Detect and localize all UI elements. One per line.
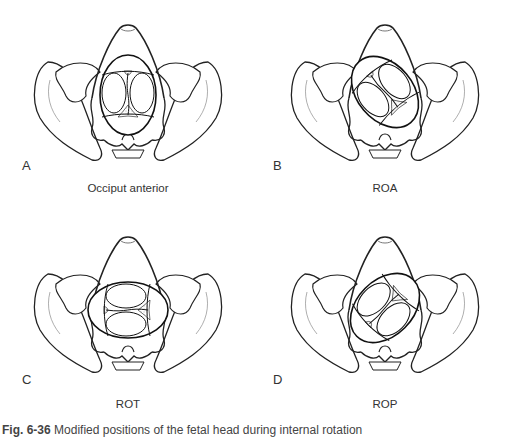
figure-caption-text: Modified positions of the fetal head dur… — [54, 423, 362, 437]
panel-label: ROP — [257, 398, 513, 410]
pelvis-illustration-rop — [257, 212, 513, 382]
panel-letter: D — [273, 372, 282, 387]
panel-letter: B — [273, 158, 282, 173]
figure-number: Fig. 6-36 — [2, 423, 51, 437]
panel-label: ROT — [0, 398, 256, 410]
pelvis-illustration-roa — [257, 0, 513, 170]
panel-label: Occiput anterior — [0, 182, 256, 194]
panel-a: A Occiput anterior — [0, 0, 256, 200]
panel-letter: C — [22, 372, 31, 387]
pelvis-illustration-rot — [0, 212, 256, 382]
panel-letter: A — [22, 158, 31, 173]
panel-b: B ROA — [257, 0, 513, 200]
figure-caption: Fig. 6-36 Modified positions of the feta… — [2, 423, 362, 437]
panel-d: D ROP — [257, 212, 513, 412]
panel-label: ROA — [257, 182, 513, 194]
panel-c: C ROT — [0, 212, 256, 412]
pelvis-illustration-occiput-anterior — [0, 0, 256, 170]
